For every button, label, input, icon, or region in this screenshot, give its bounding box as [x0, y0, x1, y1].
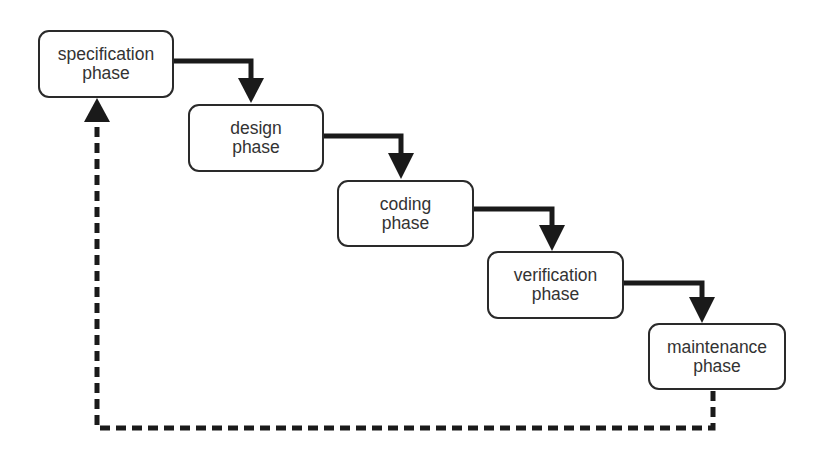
phase-label: design — [230, 119, 282, 138]
phase-box-maintenance: maintenance phase — [648, 323, 786, 390]
arrowhead-icon — [388, 153, 414, 179]
phase-label: coding — [380, 195, 432, 214]
arrowhead-icon — [689, 297, 715, 323]
arrow-design-to-coding — [324, 136, 401, 155]
phase-label: phase — [693, 357, 741, 376]
arrow-verification-to-maintenance — [623, 283, 702, 298]
arrowhead-up-icon — [84, 98, 110, 122]
phase-label: phase — [232, 138, 280, 157]
phase-label: phase — [82, 64, 130, 83]
phase-box-design: design phase — [188, 104, 324, 172]
phase-box-verification: verification phase — [487, 251, 624, 319]
arrow-spec-to-design — [173, 61, 251, 80]
phase-label: phase — [532, 285, 580, 304]
arrowhead-icon — [238, 78, 264, 103]
phase-label: maintenance — [667, 338, 767, 357]
arrowhead-icon — [539, 225, 565, 251]
phase-box-specification: specification phase — [38, 30, 174, 98]
phase-label: phase — [382, 214, 430, 233]
phase-box-coding: coding phase — [337, 180, 474, 247]
phase-label: verification — [514, 266, 598, 285]
phase-label: specification — [58, 45, 154, 64]
arrow-coding-to-verification — [473, 209, 552, 227]
